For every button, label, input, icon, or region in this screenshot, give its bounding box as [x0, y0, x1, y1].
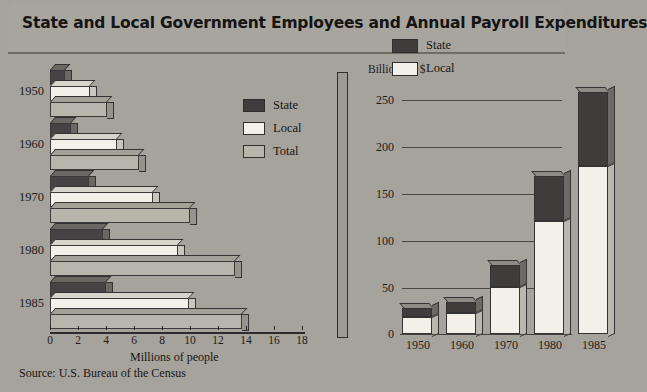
- segment-local-1950: [402, 317, 432, 334]
- right-xlabel-1960: 1960: [442, 338, 482, 353]
- bar-total-1980: [50, 261, 235, 276]
- right-ylabel-100: 100: [364, 234, 394, 249]
- bar-side-state-1980: [564, 170, 571, 221]
- legend-swatch-state-right: [392, 39, 418, 53]
- stacked-bar-1980: [534, 176, 564, 334]
- left-year-label-1980: 1980: [10, 243, 44, 258]
- left-tick-6: [134, 326, 135, 330]
- left-ticklabel-6: 6: [124, 334, 144, 346]
- segment-state-1970: [490, 265, 520, 287]
- legend-swatch-local: [243, 122, 265, 135]
- right-x-axis: [400, 334, 572, 335]
- segment-state-1985: [578, 92, 608, 166]
- gridline-250: [402, 100, 562, 101]
- segment-local-1960: [446, 313, 476, 334]
- left-tick-14: [246, 326, 247, 330]
- left-ticklabel-0: 0: [40, 334, 60, 346]
- legend-swatch-state: [243, 99, 265, 112]
- right-xlabel-1980: 1980: [530, 338, 570, 353]
- bar-side-local-1985: [608, 163, 615, 337]
- left-year-label-1950: 1950: [10, 84, 44, 99]
- left-axis-caption: Millions of people: [130, 350, 219, 365]
- legend-swatch-local-right: [392, 62, 418, 76]
- left-year-label-1985: 1985: [10, 296, 44, 311]
- payroll-stacked-bar-chart: Billions of $ 250 200 150 100 50 0: [356, 0, 573, 340]
- left-tick-2: [78, 326, 79, 330]
- bar-total-1960: [50, 155, 139, 170]
- segment-local-1970: [490, 287, 520, 334]
- right-ylabel-200: 200: [364, 140, 394, 155]
- right-ylabel-250: 250: [364, 93, 394, 108]
- bar-side-local-1960: [476, 310, 483, 337]
- legend-label-total: Total: [273, 144, 299, 159]
- bar-side-local-1970: [520, 284, 527, 337]
- left-ticklabel-8: 8: [152, 334, 172, 346]
- gridline-200: [402, 147, 562, 148]
- left-ticklabel-4: 4: [96, 334, 116, 346]
- right-xlabel-1985: 1985: [574, 338, 614, 353]
- right-xlabel-1950: 1950: [398, 338, 438, 353]
- legend-label-state-right: State: [426, 38, 451, 53]
- stacked-bar-1970: [490, 265, 520, 334]
- bar-side-state-1970: [520, 259, 527, 287]
- left-tick-18: [302, 326, 303, 330]
- left-ticklabel-16: 16: [264, 334, 284, 346]
- left-tick-0: [50, 326, 51, 330]
- bar-side-local-1980: [564, 218, 571, 337]
- stacked-bar-1960: [446, 302, 476, 334]
- bar-total-1970: [50, 208, 190, 223]
- right-xlabel-1970: 1970: [486, 338, 526, 353]
- right-ylabel-0: 0: [364, 327, 394, 342]
- source-note: Source: U.S. Bureau of the Census: [19, 366, 186, 381]
- stacked-bar-1985: [578, 92, 608, 334]
- legend-label-state: State: [273, 98, 298, 113]
- left-tick-8: [162, 326, 163, 330]
- left-ticklabel-10: 10: [180, 334, 200, 346]
- legend-label-local: Local: [273, 121, 301, 136]
- legend-swatch-total: [243, 145, 265, 158]
- legend-label-local-right: Local: [426, 61, 454, 76]
- left-ticklabel-12: 12: [208, 334, 228, 346]
- left-year-label-1960: 1960: [10, 137, 44, 152]
- segment-local-1980: [534, 221, 564, 334]
- chart-divider-bar: [337, 72, 348, 338]
- left-ticklabel-18: 18: [292, 334, 312, 346]
- left-tick-4: [106, 326, 107, 330]
- left-ticklabel-14: 14: [236, 334, 256, 346]
- right-ylabel-150: 150: [364, 187, 394, 202]
- left-tick-10: [190, 326, 191, 330]
- right-ylabel-50: 50: [364, 281, 394, 296]
- left-tick-16: [274, 326, 275, 330]
- bar-total-1950: [50, 102, 107, 117]
- left-tick-12: [218, 326, 219, 330]
- bar-side-state-1985: [608, 86, 615, 166]
- segment-local-1985: [578, 166, 608, 334]
- employees-bar-chart: 1950 1960 1970 1980 1985: [0, 0, 330, 340]
- segment-state-1980: [534, 176, 564, 221]
- segment-state-1950: [402, 308, 432, 317]
- stacked-bar-1950: [402, 308, 432, 334]
- segment-state-1960: [446, 302, 476, 313]
- left-year-label-1970: 1970: [10, 190, 44, 205]
- left-ticklabel-2: 2: [68, 334, 88, 346]
